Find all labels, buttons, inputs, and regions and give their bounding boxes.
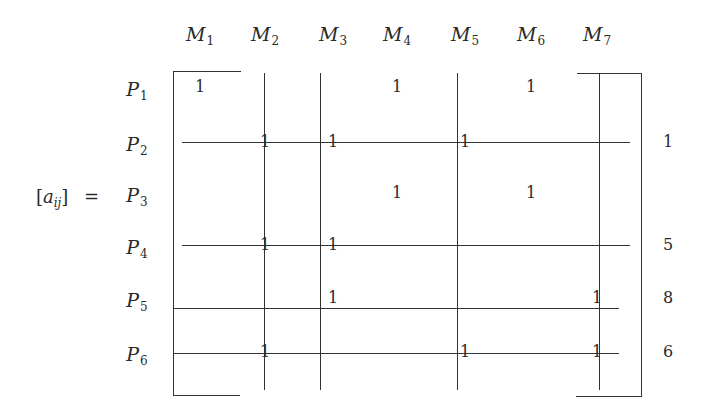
column-subscript: 6 — [537, 34, 545, 48]
row-letter: P — [126, 184, 139, 206]
matrix-cell: 1 — [392, 185, 402, 201]
row-header-p1: P1 — [126, 80, 147, 102]
row-subscript: 3 — [140, 195, 148, 209]
column-header-m4: M4 — [383, 25, 411, 47]
column-subscript: 4 — [403, 34, 411, 48]
matrix-cell: 1 — [526, 79, 536, 95]
right-bracket-top — [577, 73, 642, 74]
column-header-m7: M7 — [583, 25, 611, 47]
matrix-cell: 1 — [328, 237, 338, 253]
row-letter: P — [126, 236, 139, 258]
left-bracket-bottom — [173, 395, 240, 396]
matrix-cell: 1 — [328, 290, 338, 306]
column-letter: M — [251, 23, 270, 45]
column-subscript: 5 — [471, 34, 479, 48]
column-subscript: 7 — [603, 34, 611, 48]
cover-line-col-m3 — [320, 73, 321, 390]
cover-line-col-m5 — [457, 73, 458, 390]
column-letter: M — [383, 23, 402, 45]
row-letter: P — [126, 78, 139, 100]
matrix-cell: 1 — [260, 237, 270, 253]
row-subscript: 5 — [140, 300, 148, 314]
column-header-m5: M5 — [451, 25, 479, 47]
right-bracket-vertical — [641, 73, 642, 396]
matrix-cell: 1 — [592, 290, 602, 306]
cover-line-row-p2 — [182, 142, 630, 143]
right-bracket-bottom — [576, 396, 642, 397]
close-bracket: ] — [61, 186, 68, 207]
column-subscript: 3 — [339, 34, 347, 48]
row-header-p6: P6 — [126, 345, 147, 367]
column-letter: M — [451, 23, 470, 45]
matrix-cell: 1 — [195, 79, 205, 95]
row-subscript: 4 — [140, 247, 148, 261]
column-subscript: 2 — [271, 34, 279, 48]
matrix-lhs: [aij] = — [36, 186, 99, 210]
matrix-cell: 1 — [260, 134, 270, 150]
column-header-m2: M2 — [251, 25, 279, 47]
row-subscript: 6 — [140, 354, 148, 368]
left-bracket-top — [173, 71, 241, 72]
row-order-label: 8 — [663, 290, 673, 306]
matrix-cell: 1 — [260, 344, 270, 360]
matrix-cell: 1 — [328, 134, 338, 150]
open-bracket: [ — [36, 186, 43, 207]
column-header-m1: M1 — [186, 25, 214, 47]
var-a: a — [43, 186, 54, 207]
cover-line-row-p4 — [182, 245, 630, 246]
column-letter: M — [186, 23, 205, 45]
row-letter: P — [126, 343, 139, 365]
column-letter: M — [319, 23, 338, 45]
column-letter: M — [517, 23, 536, 45]
equals-sign: = — [84, 186, 99, 207]
column-header-m6: M6 — [517, 25, 545, 47]
matrix-cell: 1 — [460, 344, 470, 360]
column-subscript: 1 — [206, 34, 214, 48]
matrix-cell: 1 — [592, 344, 602, 360]
column-letter: M — [583, 23, 602, 45]
matrix-cell: 1 — [392, 79, 402, 95]
cover-line-row-p5 — [174, 308, 619, 309]
row-letter: P — [126, 133, 139, 155]
row-subscript: 1 — [140, 89, 148, 103]
row-letter: P — [126, 289, 139, 311]
row-order-label: 1 — [663, 134, 673, 150]
column-header-m3: M3 — [319, 25, 347, 47]
row-header-p2: P2 — [126, 135, 147, 157]
matrix-cell: 1 — [526, 185, 536, 201]
row-order-label: 5 — [663, 237, 673, 253]
matrix-cell: 1 — [460, 134, 470, 150]
row-header-p5: P5 — [126, 291, 147, 313]
row-order-label: 6 — [663, 344, 673, 360]
row-subscript: 2 — [140, 144, 148, 158]
row-header-p3: P3 — [126, 186, 147, 208]
row-header-p4: P4 — [126, 238, 147, 260]
cover-line-row-p6 — [174, 353, 619, 354]
left-bracket-vertical — [173, 71, 174, 395]
